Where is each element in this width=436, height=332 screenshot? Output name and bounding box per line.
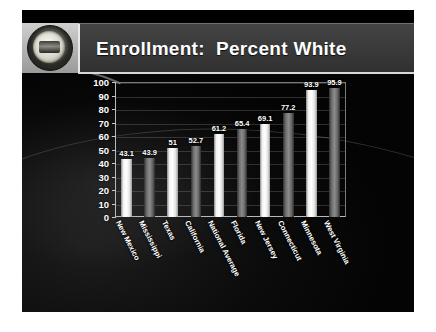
y-axis-tick-mark [112, 123, 116, 124]
bar-value-label: 77.2 [281, 103, 296, 112]
y-axis-tick-label: 30 [98, 171, 109, 182]
bar[interactable] [283, 113, 294, 217]
y-axis-tick-mark [112, 82, 116, 83]
bar-slot: 95.9 [329, 82, 340, 217]
bar-value-label: 93.9 [304, 80, 319, 89]
seal-container [22, 23, 78, 73]
y-axis-tick-mark [112, 204, 116, 205]
title-underline [78, 72, 414, 74]
y-axis-tick-label: 100 [93, 77, 109, 88]
y-axis-tick-label: 20 [98, 185, 109, 196]
slide-header: Enrollment: Percent White [22, 23, 414, 73]
bar-value-label: 65.4 [235, 119, 250, 128]
page-title: Enrollment: Percent White [80, 38, 347, 60]
y-axis-tick-mark [112, 136, 116, 137]
bar[interactable] [167, 148, 178, 217]
y-axis-tick-mark [112, 96, 116, 97]
y-axis: 1009080706050403020100 [70, 76, 112, 223]
y-axis-tick-label: 80 [98, 104, 109, 115]
bar[interactable] [214, 134, 225, 217]
bar-slot: 43.1 [121, 82, 132, 217]
bar-value-label: 51 [169, 138, 177, 147]
bar[interactable] [329, 88, 340, 217]
x-axis-tick-label: West Virginia [322, 219, 352, 266]
y-axis-tick-label: 50 [98, 144, 109, 155]
bar[interactable] [191, 146, 202, 217]
bar-value-label: 43.9 [142, 148, 157, 157]
y-axis-tick-mark [112, 163, 116, 164]
y-axis-tick-mark [112, 177, 116, 178]
bar-value-label: 43.1 [119, 149, 134, 158]
y-axis-tick-mark [112, 109, 116, 110]
bar-slot: 61.2 [214, 82, 225, 217]
y-axis-tick-label: 10 [98, 198, 109, 209]
y-axis-tick-mark [112, 150, 116, 151]
x-axis-labels: New MexicoMississippiTexasCaliforniaNati… [115, 219, 346, 311]
y-axis-tick-label: 0 [104, 212, 109, 223]
bar-value-label: 52.7 [189, 136, 204, 145]
x-axis-tick-label: Texas [160, 219, 178, 242]
bar[interactable] [144, 158, 155, 217]
bar-slot: 51 [167, 82, 178, 217]
y-axis-tick-label: 40 [98, 158, 109, 169]
x-axis-tick-label: Mississippi [137, 219, 164, 260]
bar-value-label: 61.2 [212, 124, 227, 133]
bar-value-label: 69.1 [258, 114, 273, 123]
bar-slot: 65.4 [237, 82, 248, 217]
header-top-strip [22, 10, 414, 23]
bar-slot: 77.2 [283, 82, 294, 217]
bar-slot: 52.7 [191, 82, 202, 217]
y-axis-tick-label: 90 [98, 90, 109, 101]
bar[interactable] [260, 124, 271, 217]
bars-layer: 43.143.95152.761.265.469.177.293.995.9 [115, 82, 346, 217]
y-axis-tick-mark [112, 217, 116, 218]
presentation-slide: Enrollment: Percent White 10090807060504… [22, 10, 414, 312]
bar-slot: 43.9 [144, 82, 155, 217]
bar-slot: 93.9 [306, 82, 317, 217]
x-axis-tick-label: New Jersey [252, 219, 279, 260]
title-plate: Enrollment: Percent White [78, 23, 414, 73]
x-axis-tick-label: Minnesota [299, 219, 324, 257]
state-seal-icon [27, 25, 73, 71]
x-axis-tick-label: California [183, 219, 207, 254]
bar[interactable] [306, 90, 317, 217]
x-axis-tick-label: Florida [229, 219, 249, 246]
y-axis-tick-label: 70 [98, 117, 109, 128]
bar-value-label: 95.9 [327, 78, 342, 87]
bar-slot: 69.1 [260, 82, 271, 217]
bar-chart: 1009080706050403020100 43.143.95152.761.… [22, 76, 414, 312]
y-axis-tick-label: 60 [98, 131, 109, 142]
bar[interactable] [121, 159, 132, 217]
y-axis-tick-mark [112, 190, 116, 191]
bar[interactable] [237, 129, 248, 217]
